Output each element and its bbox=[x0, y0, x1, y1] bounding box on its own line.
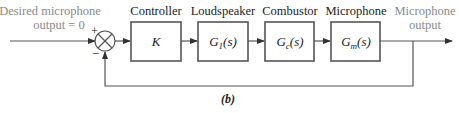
minus-sign: − bbox=[92, 47, 99, 61]
output-label-line2: output bbox=[409, 18, 441, 32]
figure-caption: (b) bbox=[221, 92, 235, 106]
loudspeaker-title: Loudspeaker bbox=[191, 4, 256, 18]
loudspeaker-tf: G1(s) bbox=[209, 34, 237, 51]
controller-title: Controller bbox=[130, 4, 182, 18]
combustor-tf: Gc(s) bbox=[276, 34, 303, 51]
input-label-line1: Desired microphone bbox=[0, 4, 101, 18]
combustor-title: Combustor bbox=[262, 4, 318, 18]
plus-sign: + bbox=[91, 24, 98, 38]
output-label-line1: Microphone bbox=[394, 4, 456, 18]
microphone-title: Microphone bbox=[325, 4, 387, 18]
controller-tf: K bbox=[151, 34, 162, 49]
input-label-line2: output = 0 bbox=[33, 18, 85, 32]
block-diagram: Desired microphone output = 0 + − Contro… bbox=[0, 0, 459, 113]
